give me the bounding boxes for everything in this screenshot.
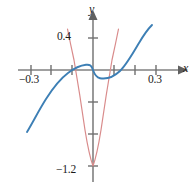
y-tick-label-neg-1-2: −1.2 bbox=[56, 164, 76, 176]
y-tick-label-0-4: 0.4 bbox=[57, 31, 71, 43]
graph-figure: y x 0.4 −0.3 0.3 −1.2 bbox=[0, 0, 196, 192]
y-axis-label: y bbox=[89, 3, 94, 15]
x-tick-label-0-3: 0.3 bbox=[148, 74, 162, 86]
x-axis-label: x bbox=[183, 62, 188, 74]
x-tick-label-neg-0-3: −0.3 bbox=[19, 74, 39, 86]
blue-cubic-curve bbox=[27, 25, 152, 132]
plot-canvas bbox=[0, 0, 196, 192]
